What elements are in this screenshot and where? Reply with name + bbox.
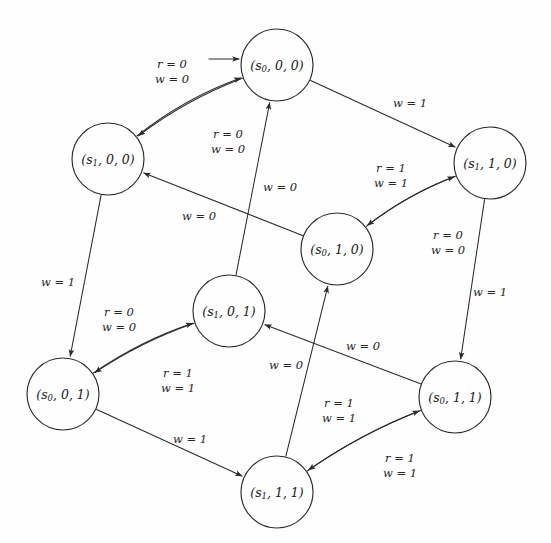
state-node-label: (s1, 0, 1) bbox=[202, 304, 256, 320]
edge-label: w = 1 bbox=[393, 96, 427, 110]
edge-label-line: w = 0 bbox=[346, 339, 380, 353]
nodes-layer: (s0, 0, 0)(s1, 0, 0)(s1, 1, 0)(s0, 1, 0)… bbox=[27, 29, 526, 528]
edge-label: r = 0w = 0 bbox=[155, 57, 189, 86]
edge-label-line: w = 0 bbox=[263, 180, 297, 194]
edge-label: w = 1 bbox=[41, 275, 75, 289]
state-transition-diagram: (s0, 0, 0)(s1, 0, 0)(s1, 1, 0)(s0, 1, 0)… bbox=[0, 0, 551, 543]
state-node-label: (s0, 1, 0) bbox=[310, 242, 364, 258]
edge-label: r = 0w = 0 bbox=[431, 228, 465, 257]
state-node-label: (s1, 0, 0) bbox=[81, 152, 135, 168]
transition-edge bbox=[265, 325, 420, 384]
edge-label-line: r = 0 bbox=[213, 127, 243, 141]
edge-label-line: r = 1 bbox=[324, 396, 354, 410]
state-node[interactable]: (s1, 1, 0) bbox=[454, 127, 526, 199]
edge-label-line: r = 1 bbox=[163, 366, 193, 380]
edge-label: r = 1w = 1 bbox=[383, 451, 417, 480]
transition-edge bbox=[97, 409, 242, 476]
edge-label-line: r = 0 bbox=[433, 228, 463, 242]
state-node[interactable]: (s0, 0, 0) bbox=[241, 29, 313, 101]
state-node[interactable]: (s0, 0, 1) bbox=[27, 358, 99, 430]
edge-label-line: r = 1 bbox=[376, 161, 406, 175]
edge-label-line: w = 1 bbox=[41, 275, 75, 289]
edge-label-line: w = 1 bbox=[374, 176, 408, 190]
edge-label: w = 0 bbox=[182, 209, 216, 223]
state-node-label: (s0, 0, 1) bbox=[36, 387, 90, 403]
edge-label-line: w = 0 bbox=[269, 358, 303, 372]
edge-label-line: r = 0 bbox=[157, 57, 187, 71]
edge-label-line: w = 1 bbox=[161, 381, 195, 395]
edge-label: w = 0 bbox=[263, 180, 297, 194]
state-node[interactable]: (s1, 0, 0) bbox=[72, 123, 144, 195]
edge-label: r = 1w = 1 bbox=[322, 396, 356, 425]
edge-label-line: w = 1 bbox=[473, 285, 507, 299]
fsm-canvas: (s0, 0, 0)(s1, 0, 0)(s1, 1, 0)(s0, 1, 0)… bbox=[0, 0, 551, 543]
state-node-label: (s0, 0, 0) bbox=[250, 58, 304, 74]
edge-label: w = 0 bbox=[346, 339, 380, 353]
edge-label-line: w = 0 bbox=[431, 243, 465, 257]
state-node-label: (s1, 1, 1) bbox=[250, 485, 304, 501]
edge-label-line: w = 1 bbox=[173, 432, 207, 446]
edge-label-line: w = 0 bbox=[182, 209, 216, 223]
edge-label-line: r = 1 bbox=[385, 451, 415, 465]
edge-label: r = 0w = 0 bbox=[102, 305, 136, 334]
transition-edge bbox=[311, 80, 455, 146]
edge-label: w = 1 bbox=[473, 285, 507, 299]
edge-label-line: w = 1 bbox=[322, 411, 356, 425]
edge-label: r = 1w = 1 bbox=[161, 366, 195, 395]
state-node-label: (s1, 1, 0) bbox=[463, 156, 517, 172]
edge-label-line: w = 1 bbox=[393, 96, 427, 110]
edge-label-line: w = 1 bbox=[383, 466, 417, 480]
state-node-label: (s0, 1, 1) bbox=[428, 390, 482, 406]
edge-label: w = 1 bbox=[173, 432, 207, 446]
edge-label: r = 0w = 0 bbox=[211, 127, 245, 156]
state-node[interactable]: (s0, 1, 0) bbox=[301, 213, 373, 285]
state-node[interactable]: (s1, 0, 1) bbox=[193, 275, 265, 347]
edge-label-line: r = 0 bbox=[104, 305, 134, 319]
state-node[interactable]: (s1, 1, 1) bbox=[241, 456, 313, 528]
edge-label: r = 1w = 1 bbox=[374, 161, 408, 190]
edge-label-line: w = 0 bbox=[155, 72, 189, 86]
edge-label-line: w = 0 bbox=[211, 142, 245, 156]
transition-edge bbox=[461, 200, 485, 359]
state-node[interactable]: (s0, 1, 1) bbox=[419, 361, 491, 433]
edge-label-line: w = 0 bbox=[102, 320, 136, 334]
edge-label: w = 0 bbox=[269, 358, 303, 372]
